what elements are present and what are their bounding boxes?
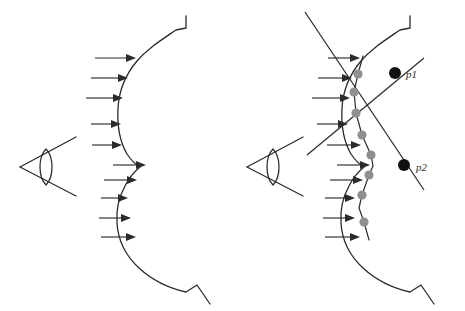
light-arrow xyxy=(86,94,123,102)
sample-dot xyxy=(359,217,368,226)
light-arrow xyxy=(323,214,355,222)
light-arrow xyxy=(99,214,131,222)
sample-dot xyxy=(353,69,362,78)
sample-dot xyxy=(351,108,360,117)
sample-dot xyxy=(364,170,373,179)
sample-dot xyxy=(349,87,358,96)
light-arrow xyxy=(95,54,136,62)
light-arrow xyxy=(113,161,146,169)
right-panel: p1 p2 xyxy=(247,12,434,304)
light-arrow xyxy=(330,176,363,184)
vertex-dot xyxy=(398,159,410,171)
vertex-label-p2: p2 xyxy=(415,161,428,173)
eye-icon xyxy=(247,137,303,196)
figure-container: p1 p2 xyxy=(0,0,465,311)
sample-dot xyxy=(357,130,366,139)
light-arrow xyxy=(325,194,355,202)
light-arrow xyxy=(101,194,128,202)
sample-dot xyxy=(357,190,366,199)
diagram-canvas: p1 p2 xyxy=(0,0,465,311)
light-arrow xyxy=(317,120,348,128)
light-arrow xyxy=(92,141,122,149)
light-arrow xyxy=(337,161,370,169)
light-arrow xyxy=(91,74,128,82)
left-panel xyxy=(20,16,210,304)
eye-pupil-lens xyxy=(40,149,52,185)
light-arrow xyxy=(104,176,137,184)
light-arrow xyxy=(327,141,361,149)
vertex-label-p1: p1 xyxy=(405,68,417,80)
sample-dot xyxy=(366,150,375,159)
light-arrow xyxy=(91,120,121,128)
vertex-p1: p1 xyxy=(389,67,417,80)
eye-icon xyxy=(20,137,76,196)
light-arrow-group-left xyxy=(86,54,146,241)
sampled-polyline xyxy=(354,56,373,240)
eye-pupil-lens xyxy=(267,149,279,185)
vertex-dot xyxy=(389,67,401,79)
vertex-p2: p2 xyxy=(398,159,428,173)
light-arrow xyxy=(328,54,360,62)
